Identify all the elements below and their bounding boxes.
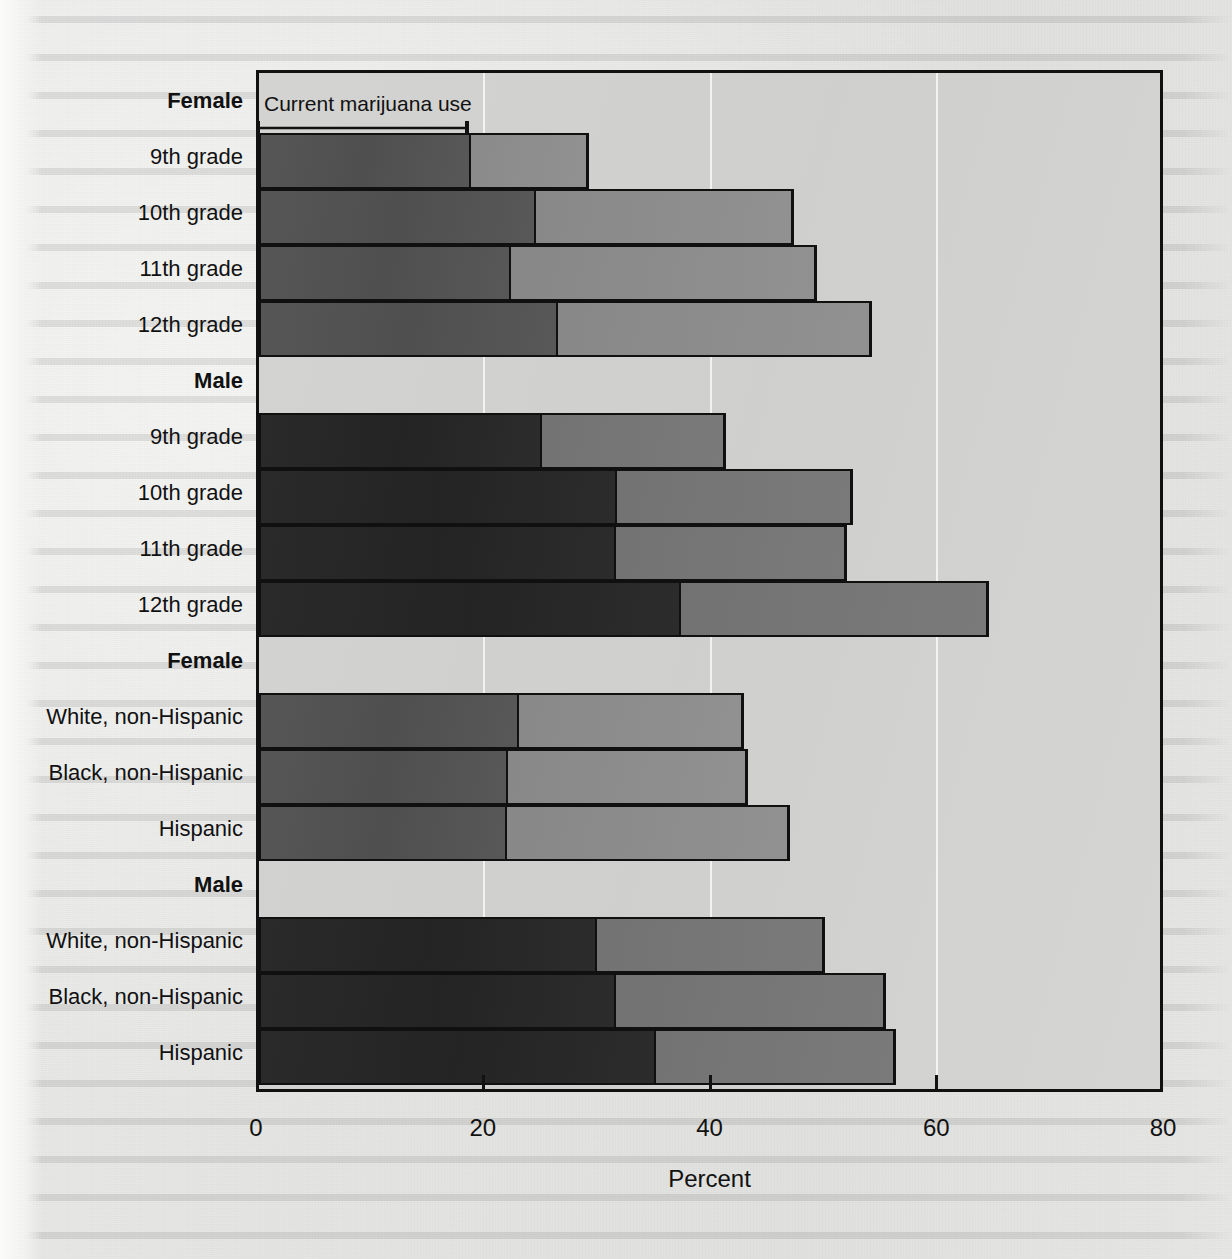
bar-row xyxy=(259,413,1160,469)
y-label-white-non-hispanic: White, non-Hispanic xyxy=(0,706,243,728)
bar-row xyxy=(259,301,1160,357)
bar-segment-current xyxy=(259,749,508,805)
bar-row xyxy=(259,525,1160,581)
bar-row xyxy=(259,805,1160,861)
x-axis-title: Percent xyxy=(256,1165,1163,1193)
bar-segment-current xyxy=(259,1029,656,1085)
bar-segment-current xyxy=(259,693,519,749)
bar-segment-current xyxy=(259,133,471,189)
y-label-black-non-hispanic: Black, non-Hispanic xyxy=(0,762,243,784)
y-label-12th-grade: 12th grade xyxy=(0,594,243,616)
group-header-male-1: Male xyxy=(0,370,243,392)
bar-segment-current xyxy=(259,525,616,581)
x-axis-tick-label: 60 xyxy=(923,1114,950,1142)
y-label-9th-grade: 9th grade xyxy=(0,426,243,448)
bar-row xyxy=(259,749,1160,805)
group-header-female-2: Female xyxy=(0,650,243,672)
x-axis-tick xyxy=(482,1075,485,1089)
y-label-white-non-hispanic: White, non-Hispanic xyxy=(0,930,243,952)
bar-segment-current xyxy=(259,581,681,637)
group-header-male-3: Male xyxy=(0,874,243,896)
bar-segment-current xyxy=(259,469,617,525)
bar-segment-current xyxy=(259,805,507,861)
bar-row xyxy=(259,973,1160,1029)
bar-segment-current xyxy=(259,245,511,301)
y-label-10th-grade: 10th grade xyxy=(0,482,243,504)
x-axis-tick-label: 40 xyxy=(696,1114,723,1142)
bar-row xyxy=(259,917,1160,973)
bar-row xyxy=(259,693,1160,749)
y-label-11th-grade: 11th grade xyxy=(0,258,243,280)
x-axis-tick-label: 0 xyxy=(249,1114,262,1142)
plot-area xyxy=(256,70,1163,1092)
y-label-hispanic: Hispanic xyxy=(0,1042,243,1064)
bar-row xyxy=(259,245,1160,301)
bar-segment-current xyxy=(259,917,597,973)
y-label-black-non-hispanic: Black, non-Hispanic xyxy=(0,986,243,1008)
x-axis-tick-label: 20 xyxy=(469,1114,496,1142)
annotation-label: Current marijuana use xyxy=(264,92,472,116)
bar-segment-current xyxy=(259,973,616,1029)
bar-segment-current xyxy=(259,189,536,245)
bar-row xyxy=(259,133,1160,189)
stacked-bar-chart: Female9th grade10th grade11th grade12th … xyxy=(0,0,1232,1259)
bar-segment-current xyxy=(259,413,542,469)
y-label-9th-grade: 9th grade xyxy=(0,146,243,168)
bar-row xyxy=(259,581,1160,637)
y-label-11th-grade: 11th grade xyxy=(0,538,243,560)
y-label-hispanic: Hispanic xyxy=(0,818,243,840)
bar-row xyxy=(259,189,1160,245)
x-axis-tick xyxy=(709,1075,712,1089)
y-label-12th-grade: 12th grade xyxy=(0,314,243,336)
group-header-female-0: Female xyxy=(0,90,243,112)
annotation-arrow xyxy=(256,121,469,135)
bar-row xyxy=(259,469,1160,525)
x-axis-tick xyxy=(935,1075,938,1089)
bar-segment-current xyxy=(259,301,558,357)
x-axis-tick-label: 80 xyxy=(1150,1114,1177,1142)
y-label-10th-grade: 10th grade xyxy=(0,202,243,224)
